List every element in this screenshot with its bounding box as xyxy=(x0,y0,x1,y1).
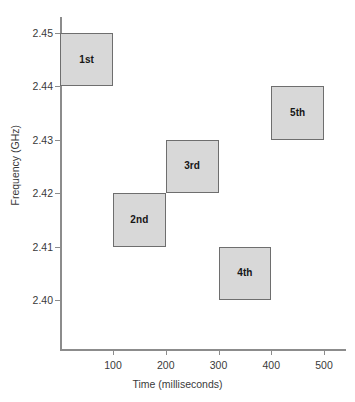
y-tick-label: 2.43 xyxy=(33,135,53,146)
plot-area: 1st2nd3rd4th5th xyxy=(61,17,346,350)
x-tick-label: 400 xyxy=(262,360,280,371)
data-box-3rd: 3rd xyxy=(166,140,219,193)
data-box-label: 1st xyxy=(79,55,94,65)
y-tick-label: 2.40 xyxy=(33,295,53,306)
y-axis-title: Frequency (GHz) xyxy=(10,95,21,235)
y-tick-label: 2.42 xyxy=(33,188,53,199)
x-tick-label: 100 xyxy=(104,360,122,371)
data-box-label: 5th xyxy=(290,108,305,118)
data-box-label: 2nd xyxy=(130,215,148,225)
x-tick-label: 200 xyxy=(157,360,175,371)
y-tick-label: 2.41 xyxy=(33,242,53,253)
x-tick-label: 500 xyxy=(315,360,333,371)
data-box-label: 3rd xyxy=(184,161,200,171)
x-tick-label: 300 xyxy=(210,360,228,371)
y-tick-label: 2.44 xyxy=(33,81,53,92)
x-axis-title: Time (milliseconds) xyxy=(0,379,355,390)
data-box-2nd: 2nd xyxy=(113,193,166,246)
frequency-hopping-chart: 2.402.412.422.432.442.45 100200300400500… xyxy=(0,0,355,402)
data-box-1st: 1st xyxy=(60,33,113,86)
data-box-label: 4th xyxy=(237,268,252,278)
y-tick-label: 2.45 xyxy=(33,28,53,39)
data-box-4th: 4th xyxy=(219,247,272,300)
data-box-5th: 5th xyxy=(271,86,324,139)
